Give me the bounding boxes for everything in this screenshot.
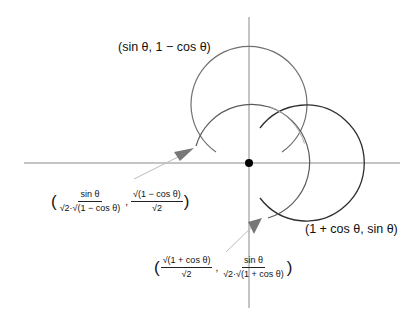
left-x-fraction: sin θ √2·√(1 − cos θ) — [58, 189, 123, 214]
denominator: √2·√(1 + cos θ) — [221, 268, 286, 280]
arrow-left-head — [174, 148, 194, 161]
top-circle-label: (sin θ, 1 − cos θ) — [118, 40, 211, 54]
close-paren: ) — [287, 259, 293, 276]
right-circle-label: (1 + cos θ, sin θ) — [305, 222, 398, 236]
bottom-point-expression: ( √(1 + cos θ) √2 , sin θ √2·√(1 + cos θ… — [154, 255, 293, 280]
close-paren: ) — [184, 193, 190, 210]
left-y-fraction: √(1 − cos θ) √2 — [131, 189, 183, 214]
bottom-y-fraction: sin θ √2·√(1 + cos θ) — [221, 255, 286, 280]
numerator: √(1 − cos θ) — [131, 189, 183, 202]
denominator: √2·√(1 − cos θ) — [58, 202, 123, 214]
denominator: √2 — [150, 202, 164, 214]
numerator: √(1 + cos θ) — [161, 255, 213, 268]
numerator: sin θ — [78, 189, 101, 202]
origin-dot — [245, 159, 253, 167]
arrow-bottom-head — [248, 218, 262, 234]
comma: , — [215, 262, 218, 273]
comma: , — [125, 196, 128, 207]
highlight-arc — [270, 107, 305, 144]
arrow-bottom-shaft — [226, 224, 255, 252]
left-point-expression: ( sin θ √2·√(1 − cos θ) , √(1 − cos θ) √… — [51, 189, 190, 214]
middle-circle-arc — [196, 104, 310, 218]
open-paren: ( — [154, 259, 160, 276]
denominator: √2 — [180, 268, 194, 280]
bottom-x-fraction: √(1 + cos θ) √2 — [161, 255, 213, 280]
open-paren: ( — [51, 193, 57, 210]
numerator: sin θ — [242, 255, 265, 268]
